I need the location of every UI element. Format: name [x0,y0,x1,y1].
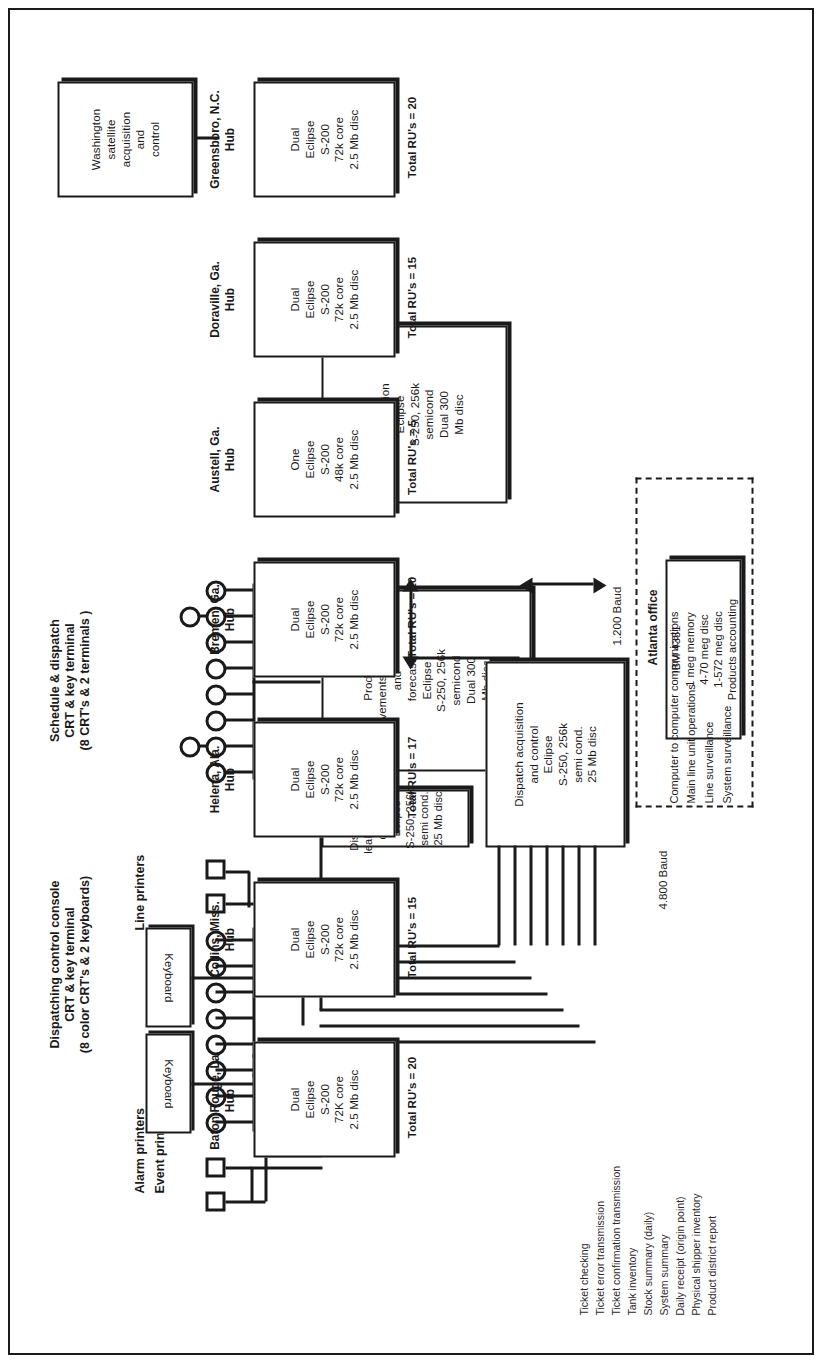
text-line: Eclipse [302,440,317,478]
crt-terminal-icon[interactable] [205,684,226,705]
hub-box-austell[interactable]: One Eclipse S-200 48k core 2.5 Mb disc [253,401,395,517]
event-printer-stem [225,1200,265,1203]
section-header-schedule-dispatch: Schedule & dispatch CRT & key terminal (… [47,575,92,785]
text-line: Eclipse [302,760,317,798]
text-line: 2.5 Mb disc [346,909,361,969]
event-printer-bus [264,1155,267,1201]
hub-ru-greensboro: Total RU's = 20 [405,77,417,197]
atlanta-function-1: Main line unit operations [683,684,697,803]
text-line: Eclipse [302,1080,317,1118]
text-line: semi cond. [570,726,585,783]
text-line: Products accounting [724,598,738,700]
hub-label-austell: Austell, Ga. Hub [207,399,237,519]
hub-ru-doraville: Total RU's = 15 [405,237,417,357]
text-line: 4-70 meg disc [696,614,710,684]
line-printer-stem [225,870,249,873]
text-line: Dual [287,127,302,151]
legend-list: Ticket checking [575,1243,592,1315]
hub-box-baton-rouge[interactable]: Dual Eclipse S-200 72K core 2.5 Mb disc [253,1041,395,1157]
hub-box-helena[interactable]: Dual Eclipse S-200 72k core 2.5 Mb disc [253,721,395,837]
text-line: Dual [287,927,302,951]
line-printer-icon[interactable] [205,859,225,879]
key-terminal-icon[interactable] [179,606,200,627]
diagram-page: Ticket checking Ticket error transmissio… [0,0,824,1365]
hub-ru-baton-rouge: Total RU's = 20 [405,1037,417,1157]
atlanta-function-2: Line surveillance [701,721,715,803]
atlanta-link [531,582,593,585]
text-line: 2.5 Mb disc [346,749,361,809]
hub-bus-3 [529,845,532,945]
key-terminal-icon[interactable] [179,736,200,757]
text-line: S-200 [317,1083,332,1114]
hub-ru-austell: Total RU's = 5 [405,397,417,517]
text-line: S-200 [317,123,332,154]
legend-item-2: Ticket confirmation transmission [609,1165,621,1315]
hub-box-helena-text: Dual Eclipse S-200 72k core 2.5 Mb disc [255,723,393,835]
hub-box-doraville-text: Dual Eclipse S-200 72k core 2.5 Mb disc [255,243,393,355]
hub-box-collins-text: Dual Eclipse S-200 72k core 2.5 Mb disc [255,883,393,995]
text-line: 48k core [331,437,346,482]
schedule-trunk-line [252,680,320,683]
alarm-printer-bus [250,1167,253,1201]
hub-riser-collins [319,1024,579,1027]
text-line: Eclipse [302,280,317,318]
text-line: Dual 300 [436,391,451,438]
text-line: 1-572 meg disc [710,611,724,688]
box-washington-satellite[interactable]: Washington satellite acquisition and con… [57,81,193,197]
text-line: 25 Mb disc [584,726,599,783]
text-line: semicond [421,389,436,439]
text-line: S-250, 256k [555,722,570,785]
hub-box-bremen-text: Dual Eclipse S-200 72k core 2.5 Mb disc [255,563,393,675]
text-line: 2.5 Mb disc [346,429,361,489]
text-line: Eclipse [302,600,317,638]
alarm-printer-stem [225,1166,251,1169]
legend-item-3: Tank inventory [625,1247,637,1315]
text-line: and control [526,725,541,783]
text-line: 2.5 Mb disc [346,109,361,169]
text-line: 72k core [331,117,346,162]
legend-item-1: Ticket error transmission [593,1200,605,1315]
bidirectional-link-leg [409,656,519,659]
legend-item-4: Stock summary (daily) [641,1211,653,1315]
text-line: 2.5 Mb disc [346,269,361,329]
hub-bus-7 [593,845,596,945]
hub-bus-2 [513,845,516,945]
hub-bus-6 [577,845,580,945]
hub-box-doraville[interactable]: Dual Eclipse S-200 72k core 2.5 Mb disc [253,241,395,357]
event-printer-icon[interactable] [205,1191,225,1211]
hub-bus-4 [545,845,548,945]
box-dispatch-acquisition-control[interactable]: Dispatch acquisition and control Eclipse… [485,661,625,847]
keyboard-unit[interactable]: Keyboard [145,1033,191,1133]
text-line: Dual [287,1087,302,1111]
hub-riser-helena [319,1008,563,1011]
hub-ru-helena: Total RU's = 17 [405,717,417,837]
atlanta-function-0: Computer to computer communications [665,611,681,803]
hub-box-bremen[interactable]: Dual Eclipse S-200 72k core 2.5 Mb disc [253,561,395,677]
text-line: semi cond. [416,791,430,845]
text-line: satellite [103,119,118,159]
box-washington-satellite-text: Washington satellite acquisition and con… [59,83,191,195]
hub-label-collins: Collins, Miss. Hub [207,879,237,999]
text-line: acquisition [118,111,133,166]
keyboard-unit[interactable]: Keyboard [145,927,191,1027]
hub-label-doraville: Doraville, Ga. Hub [207,239,237,359]
arrow-up-icon [519,577,532,593]
section-header-line-printers: Line printers [131,854,147,930]
section-header-dispatching-console: Dispatching control console CRT & key te… [47,845,92,1083]
hub-box-greensboro[interactable]: Dual Eclipse S-200 72k core 2.5 Mb disc [253,81,395,197]
text-line: Dual [287,287,302,311]
text-line: S-200 [317,443,332,474]
hub-box-collins[interactable]: Dual Eclipse S-200 72k core 2.5 Mb disc [253,881,395,997]
keyboard-label: Keyboard [162,1058,174,1107]
hub-label-bremen: Bremen, Ga. Hub [207,559,237,679]
text-line: Eclipse [302,120,317,158]
legend-item-0: Ticket checking [577,1243,589,1315]
printer-trunk-line [250,1166,322,1169]
washington-link [189,136,219,139]
text-line: One [287,448,302,470]
diagram-canvas: Ticket checking Ticket error transmissio… [19,20,805,1345]
arrow-down-icon [593,577,606,593]
text-line: 72K core [331,1076,346,1123]
hub-bus-1 [497,845,500,945]
text-line: Mb disc [451,394,466,434]
